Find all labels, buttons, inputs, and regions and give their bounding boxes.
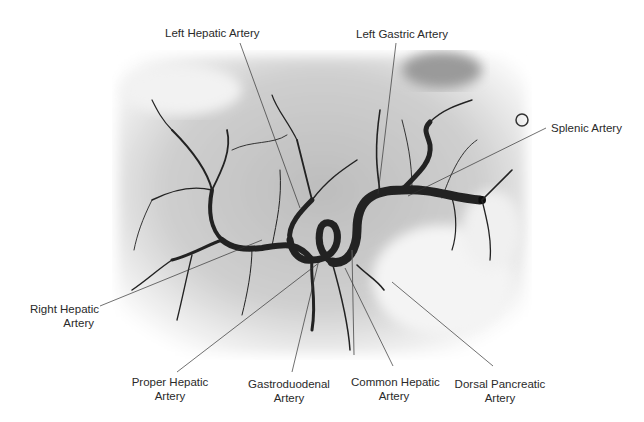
- label-left-gastric-artery: Left Gastric Artery: [356, 27, 448, 41]
- label-dorsal-pancreatic-artery: Dorsal Pancreatic Artery: [452, 377, 548, 405]
- label-splenic-artery: Splenic Artery: [551, 121, 622, 135]
- label-right-hepatic-artery: Right Hepatic Artery: [30, 302, 94, 330]
- label-gastroduodenal-artery: Gastroduodenal Artery: [246, 377, 332, 405]
- label-common-hepatic-artery: Common Hepatic Artery: [351, 375, 437, 403]
- label-proper-hepatic-artery: Proper Hepatic Artery: [128, 375, 212, 403]
- label-left-hepatic-artery: Left Hepatic Artery: [165, 26, 260, 40]
- angiogram-image: [112, 50, 532, 360]
- angiogram-figure: Left Hepatic Artery Left Gastric Artery …: [0, 0, 644, 422]
